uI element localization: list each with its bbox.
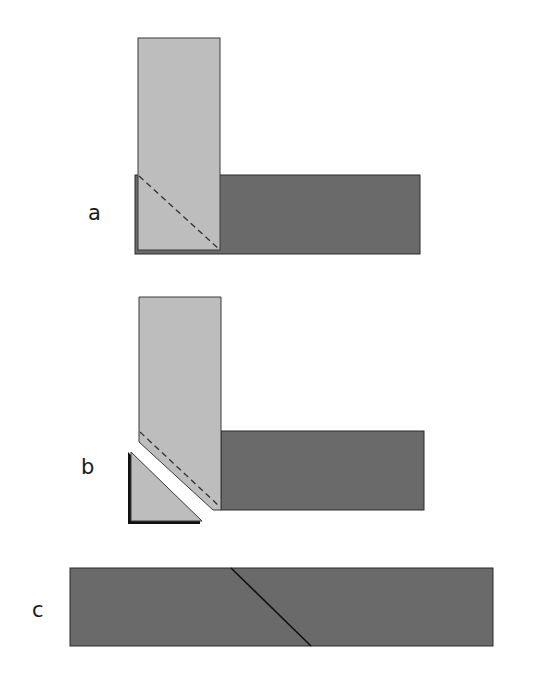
panel-c [70, 568, 493, 646]
panel-c-joined-strip [70, 568, 493, 646]
panel-c-label: c [32, 600, 44, 621]
panel-a [135, 38, 420, 254]
panel-b-dark-strip [221, 431, 424, 510]
panel-b [128, 297, 424, 524]
diagram-svg [0, 0, 539, 682]
panel-a-label: a [88, 203, 101, 224]
panel-a-light-strip [138, 38, 220, 250]
diagram-canvas: a b c [0, 0, 539, 682]
panel-b-label: b [81, 457, 94, 478]
